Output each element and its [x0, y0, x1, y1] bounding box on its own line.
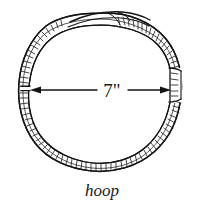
figure-caption: hoop: [85, 181, 119, 200]
hoop-figure: 7" hoop: [0, 0, 204, 206]
dimension-label: 7": [103, 80, 120, 101]
hoop-band-break-left: [21, 86, 31, 91]
hoop-illustration: 7" hoop: [0, 0, 204, 206]
